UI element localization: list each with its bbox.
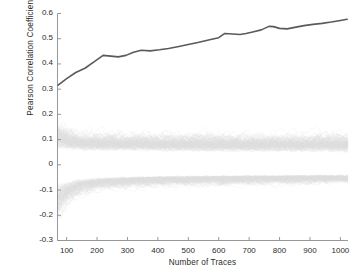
- plot-area: [0, 0, 352, 278]
- highlighted-series: [58, 19, 347, 85]
- noise-band-series: [58, 117, 349, 220]
- axis-spines-and-ticks: [58, 14, 349, 241]
- chart-figure: Pearson Correlation Coefficient Number o…: [0, 0, 352, 278]
